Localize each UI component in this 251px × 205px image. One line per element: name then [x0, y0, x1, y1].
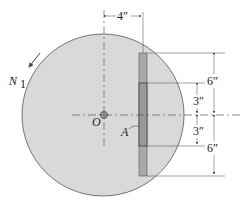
disk-diagram: 4″ 6″ 6″ 3″ 3″ N 1 O A	[0, 0, 251, 205]
dim-upper-3in-label: 3″	[193, 94, 204, 108]
rotation-arrow-icon	[29, 53, 40, 67]
rotation-subscript: 1	[20, 77, 26, 91]
plate-a	[139, 83, 147, 146]
dim-upper-6in-label: 6″	[207, 74, 218, 88]
dim-4in-label: 4″	[117, 9, 128, 23]
dim-lower-6in-label: 6″	[207, 141, 218, 155]
dim-lower-3in-label: 3″	[193, 124, 204, 138]
center-label: O	[92, 115, 101, 129]
plate-label: A	[120, 125, 129, 139]
rotation-label: N	[8, 74, 18, 88]
